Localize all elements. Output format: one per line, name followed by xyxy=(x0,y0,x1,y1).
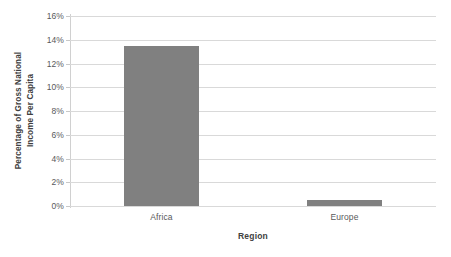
y-axis-tick-label: 0% xyxy=(12,201,64,211)
plot-area xyxy=(70,16,436,206)
y-axis-tick-label: 14% xyxy=(12,35,64,45)
y-axis-tick-labels: 0%2%4%6%8%10%12%14%16% xyxy=(8,16,64,206)
y-axis-tick-label: 2% xyxy=(12,177,64,187)
y-axis-tick-label: 6% xyxy=(12,130,64,140)
bar xyxy=(124,46,199,206)
x-axis-title: Region xyxy=(70,231,436,241)
y-axis-tick-label: 10% xyxy=(12,82,64,92)
y-axis-tick-label: 12% xyxy=(12,59,64,69)
y-axis-tick-label: 8% xyxy=(12,106,64,116)
x-axis-tick-label: Africa xyxy=(70,212,253,222)
y-axis-tick-label: 4% xyxy=(12,154,64,164)
y-axis-tick-label: 16% xyxy=(12,11,64,21)
x-axis-line xyxy=(70,206,436,207)
x-axis-tick-label: Europe xyxy=(253,212,436,222)
bar-chart: Percentage of Gross National Income Per … xyxy=(0,0,451,257)
